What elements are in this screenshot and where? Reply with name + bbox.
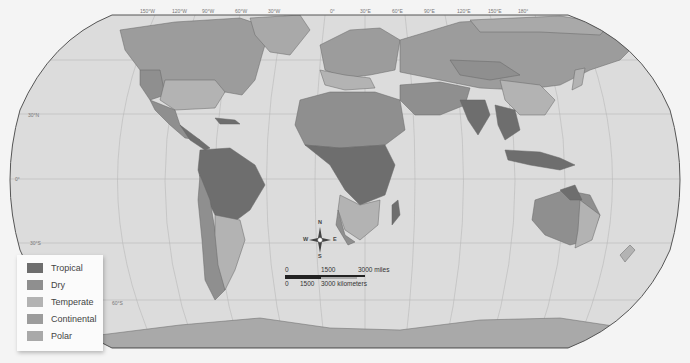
svg-text:30°S: 30°S: [30, 240, 42, 246]
legend-swatch-temperate: [27, 297, 43, 307]
legend-swatch-dry: [27, 280, 43, 290]
africa: [295, 92, 405, 148]
compass-south: S: [318, 253, 322, 259]
legend: Tropical Dry Temperate Continental Polar: [17, 255, 103, 351]
svg-text:150°E: 150°E: [488, 8, 502, 14]
scale-bar: 0 1500 3000 miles 0 1500 3000 kilometers: [283, 266, 393, 294]
scale-km-end: 3000 kilometers: [321, 280, 367, 287]
legend-item-polar: Polar: [27, 330, 72, 342]
svg-text:60°E: 60°E: [392, 8, 404, 14]
legend-swatch-tropical: [27, 263, 43, 273]
compass-east: E: [333, 236, 337, 242]
legend-item-tropical: Tropical: [27, 262, 83, 274]
legend-item-temperate: Temperate: [27, 296, 94, 308]
compass-north: N: [318, 219, 322, 225]
legend-item-continental: Continental: [27, 313, 97, 325]
svg-text:60°S: 60°S: [112, 300, 124, 306]
svg-text:180°: 180°: [518, 8, 528, 14]
legend-item-dry: Dry: [27, 279, 65, 291]
longitude-labels: 150°W 120°W 90°W 60°W 30°W 0° 30°E 60°E …: [140, 8, 528, 14]
legend-swatch-polar: [27, 331, 43, 341]
svg-text:90°E: 90°E: [424, 8, 436, 14]
scale-miles-mid: 1500: [321, 266, 335, 273]
compass-west: W: [303, 236, 308, 242]
world-map: 150°W 120°W 90°W 60°W 30°W 0° 30°E 60°E …: [0, 0, 690, 363]
scale-km-zero: 0: [285, 280, 289, 287]
svg-text:120°W: 120°W: [172, 8, 187, 14]
scale-km-mid: 1500: [300, 280, 314, 287]
svg-text:90°W: 90°W: [202, 8, 215, 14]
us-temperate-east: [160, 80, 225, 110]
svg-text:30°N: 30°N: [28, 112, 40, 118]
compass-rose: N S W E: [305, 221, 335, 259]
scale-miles-zero: 0: [285, 266, 289, 273]
svg-text:150°W: 150°W: [140, 8, 155, 14]
scale-bar-km-segment-1: [285, 277, 321, 279]
svg-text:30°E: 30°E: [360, 8, 372, 14]
svg-text:30°W: 30°W: [268, 8, 281, 14]
svg-text:120°E: 120°E: [457, 8, 471, 14]
scale-miles-end: 3000 miles: [358, 266, 389, 273]
scale-bar-km-segment-2: [321, 277, 357, 279]
svg-text:0°: 0°: [15, 176, 20, 182]
legend-swatch-continental: [27, 314, 43, 324]
svg-text:0°: 0°: [330, 8, 335, 14]
svg-text:60°W: 60°W: [235, 8, 248, 14]
